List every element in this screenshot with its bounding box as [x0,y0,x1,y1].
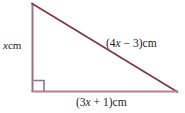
vertical-leg-label: xcm [3,40,21,51]
figure-canvas: xcm (4x − 3)cm (3x + 1)cm [0,0,185,113]
hypotenuse-operator: − [121,37,133,49]
base-operator: + [91,96,103,108]
hypotenuse-label: (4x − 3)cm [106,38,157,50]
vertical-leg-unit: cm [8,39,21,51]
hypotenuse-unit: cm [143,37,157,49]
right-angle-marker-icon [34,81,45,92]
base-unit: cm [113,96,127,108]
base-leg-label: (3x + 1)cm [76,97,127,109]
